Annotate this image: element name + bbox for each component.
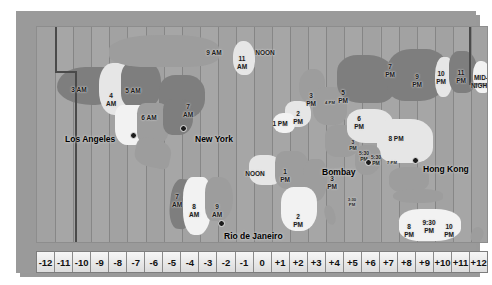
boundary-line-east-lower — [487, 83, 488, 243]
landmass-southern-africa — [281, 187, 317, 231]
offset-cell: +5 — [344, 252, 362, 272]
landmass-south-america-east — [205, 177, 233, 221]
landmass-arctic-canada — [109, 35, 219, 67]
city-marker-dot[interactable] — [180, 125, 187, 132]
offset-cell: -10 — [73, 252, 91, 272]
city-marker-dot[interactable] — [365, 159, 372, 166]
landmass-canada-central — [121, 60, 161, 108]
boundary-line-east-horizontal — [469, 83, 488, 85]
offset-cell: +7 — [380, 252, 398, 272]
time-zone-offset-scale: -12-11-10-9-8-7-6-5-4-3-2-10+1+2+3+4+5+6… — [36, 251, 488, 273]
offset-cell: -6 — [145, 252, 163, 272]
offset-cell: -3 — [199, 252, 217, 272]
landmass-indonesia — [393, 189, 443, 203]
landmass-usa-east — [163, 99, 193, 135]
offset-cell: -7 — [127, 252, 145, 272]
city-marker-dot[interactable] — [218, 220, 225, 227]
offset-cell: +11 — [452, 252, 470, 272]
time-zone-map-figure: 3 AM4 AM5 AM6 AM7 AM9 AM11 AMNOON7 AM8 A… — [0, 0, 492, 285]
offset-cell: -8 — [109, 252, 127, 272]
boundary-line-east-vertical — [469, 27, 471, 85]
offset-cell: +1 — [272, 252, 290, 272]
offset-cell: -5 — [163, 252, 181, 272]
offset-cell: +4 — [326, 252, 344, 272]
landmass-iberia — [273, 113, 295, 133]
city-label: Rio de Janeiro — [224, 231, 283, 241]
offset-cell: -1 — [236, 252, 254, 272]
offset-cell: +2 — [290, 252, 308, 272]
boundary-line-west-vertical — [55, 27, 57, 73]
landmass-australia — [399, 209, 461, 241]
landmass-far-east-tip — [473, 61, 488, 93]
city-label: Los Angeles — [65, 134, 115, 144]
city-label: New York — [195, 134, 233, 144]
offset-cell: +8 — [398, 252, 416, 272]
offset-cell: -2 — [217, 252, 235, 272]
boundary-line-west-lower — [75, 71, 77, 243]
boundary-line-west-horizontal — [55, 71, 77, 73]
offset-cell: -9 — [91, 252, 109, 272]
offset-cell: -4 — [181, 252, 199, 272]
map-plate: 3 AM4 AM5 AM6 AM7 AM9 AM11 AMNOON7 AM8 A… — [16, 11, 476, 273]
city-label: Hong Kong — [423, 164, 469, 174]
offset-cell: 0 — [254, 252, 272, 272]
offset-cell: +9 — [416, 252, 434, 272]
landmass-greenland — [233, 41, 255, 75]
world-map: 3 AM4 AM5 AM6 AM7 AM9 AM11 AMNOON7 AM8 A… — [36, 26, 488, 243]
city-marker-dot[interactable] — [412, 157, 419, 164]
offset-cell: +12 — [470, 252, 487, 272]
offset-cell: -11 — [55, 252, 73, 272]
city-marker-dot[interactable] — [130, 132, 137, 139]
landmass-china — [377, 119, 433, 163]
offset-cell: -12 — [37, 252, 55, 272]
offset-cell: +10 — [434, 252, 452, 272]
city-label: Bombay — [322, 167, 356, 177]
offset-cell: +6 — [362, 252, 380, 272]
offset-cell: +3 — [308, 252, 326, 272]
